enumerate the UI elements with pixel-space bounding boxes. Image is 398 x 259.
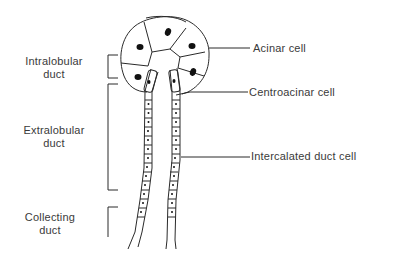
extralobular-bracket (108, 84, 118, 190)
label-line: Collecting (14, 211, 86, 224)
label-line: duct (12, 137, 96, 150)
label-line: duct (14, 68, 94, 81)
label-line: duct (14, 224, 86, 237)
acinar-cell-label: Acinar cell (253, 42, 306, 55)
label-line: Intralobular (14, 55, 94, 68)
collecting-bracket (108, 207, 118, 237)
label-line: Extralobular (12, 124, 96, 137)
right-duct-cells (168, 100, 180, 217)
centroacinar-leader (176, 92, 248, 95)
acinus-outline (121, 17, 209, 94)
intralobular-bracket (108, 55, 118, 78)
collecting-duct-label: Collecting duct (14, 211, 86, 237)
acinar-lumen (148, 49, 180, 68)
intralobular-duct-label: Intralobular duct (14, 55, 94, 81)
extralobular-duct-label: Extralobular duct (12, 124, 96, 150)
centroacinar-cell-label: Centroacinar cell (249, 86, 335, 99)
intercalated-duct-cell-label: Intercalated duct cell (251, 150, 356, 163)
